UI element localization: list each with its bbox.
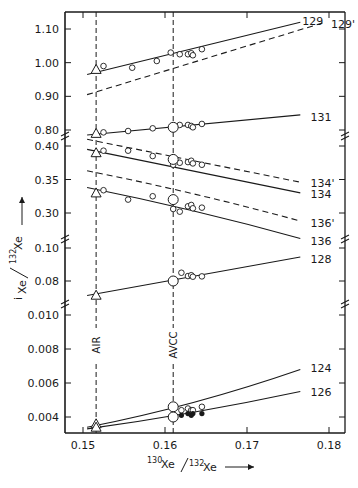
y-tick-label: 0.010: [28, 309, 60, 322]
series-label: 128: [311, 253, 332, 266]
y-title-arrow-icon: [19, 197, 25, 225]
open-circle-marker: [125, 148, 131, 154]
y-axis-title: i Xe 132 Xe: [9, 197, 29, 300]
open-circle-marker: [199, 205, 205, 211]
avcc-circle-marker: [168, 122, 178, 132]
x-title-base2: Xe: [203, 461, 217, 474]
open-circle-marker: [199, 274, 205, 280]
open-circle-marker: [179, 407, 185, 413]
y-tick-label: 0.90: [35, 90, 60, 103]
y-tick-label: 0.30: [35, 207, 60, 220]
open-circle-marker: [129, 65, 135, 71]
open-circle-marker: [101, 148, 107, 154]
open-circle-marker: [190, 52, 196, 58]
open-circle-marker: [150, 126, 156, 132]
axis-break-marks: [61, 132, 349, 308]
series-label: 124: [311, 362, 332, 375]
series-label: 129': [331, 18, 355, 31]
series-labels: 129129'131134'134136'136128124126: [302, 15, 355, 399]
series-line-136p: [87, 171, 300, 221]
y-title-base1: Xe: [16, 280, 29, 294]
plot-frame: [65, 12, 345, 433]
y-tick-label: 0.08: [35, 275, 60, 288]
y-tick-label: 0.006: [28, 377, 60, 390]
ref-line-label: AIR: [91, 337, 102, 354]
avcc-circle-marker: [168, 402, 178, 412]
ref-line-label: AVCC: [168, 331, 179, 358]
y-tick-label: 0.35: [35, 174, 60, 187]
y-tick-labels: 0.800.901.001.100.300.350.400.080.100.00…: [28, 23, 60, 424]
series-label: 126: [311, 386, 332, 399]
x-tick-labels: 0.150.160.170.18: [71, 439, 342, 452]
y-title-base2: Xe: [12, 236, 25, 250]
y-tick-label: 0.80: [35, 124, 60, 137]
x-tick-label: 0.15: [71, 439, 96, 452]
y-title-sup-i: i: [12, 297, 25, 300]
x-tick-label: 0.17: [235, 439, 260, 452]
open-circle-marker: [168, 50, 174, 56]
open-circle-marker: [101, 63, 107, 69]
open-circle-marker: [177, 209, 183, 215]
open-circle-marker: [199, 46, 205, 52]
air-triangle-marker: [91, 188, 101, 197]
series-label: 131: [311, 111, 332, 124]
series-label: 129: [302, 15, 323, 28]
x-title-sup2: 132: [189, 459, 204, 468]
open-circle-marker: [199, 121, 205, 127]
x-tick-label: 0.16: [153, 439, 178, 452]
open-circle-marker: [190, 161, 196, 167]
open-circle-marker: [179, 270, 185, 276]
open-circle-marker: [199, 404, 205, 410]
open-circle-marker: [190, 274, 196, 280]
filled-circle-marker: [199, 411, 204, 416]
avcc-circle-marker: [168, 195, 178, 205]
y-tick-label: 1.10: [35, 23, 60, 36]
series-line-134: [87, 149, 300, 193]
series-line-136: [87, 188, 300, 239]
series-lines: [87, 22, 325, 429]
avcc-circle-marker: [168, 412, 178, 422]
series-line-129: [87, 22, 300, 74]
avcc-circle-marker: [168, 276, 178, 286]
y-title-sup2: 132: [9, 249, 18, 264]
open-circle-marker: [190, 125, 196, 131]
open-circle-marker: [177, 51, 183, 57]
series-label: 136: [311, 235, 332, 248]
series-label: 134: [311, 188, 332, 201]
open-circle-marker: [199, 162, 205, 168]
open-circle-marker: [170, 206, 176, 212]
y-tick-label: 0.004: [28, 411, 60, 424]
isotope-ratio-chart: 0.800.901.001.100.300.350.400.080.100.00…: [0, 0, 358, 488]
air-triangle-marker: [91, 128, 101, 137]
y-tick-label: 0.008: [28, 343, 60, 356]
series-label: 136': [311, 217, 335, 230]
x-tick-label: 0.18: [317, 439, 342, 452]
filled-circle-marker: [190, 411, 195, 416]
series-line-129p: [87, 22, 325, 94]
filled-circle-marker: [179, 413, 184, 418]
open-circle-marker: [125, 197, 131, 203]
open-circle-marker: [190, 206, 196, 212]
reference-lines: AIRAVCC: [91, 12, 179, 433]
x-title-sup1: 130: [147, 456, 162, 465]
open-circle-marker: [101, 130, 107, 136]
open-circle-marker: [125, 128, 131, 134]
y-tick-label: 0.40: [35, 140, 60, 153]
open-circle-marker: [150, 193, 156, 199]
y-tick-label: 0.10: [35, 242, 60, 255]
y-tick-label: 1.00: [35, 57, 60, 70]
data-markers: [91, 46, 205, 431]
open-circle-marker: [150, 153, 156, 159]
air-triangle-marker: [91, 64, 101, 73]
x-title-arrow-icon: [225, 464, 254, 470]
axis-ticks: [65, 12, 345, 433]
open-circle-marker: [154, 58, 160, 64]
open-circle-marker: [101, 187, 107, 193]
x-axis-title: 130 Xe 132 Xe: [147, 456, 254, 474]
avcc-circle-marker: [168, 154, 178, 164]
x-title-base1: Xe: [161, 458, 175, 471]
